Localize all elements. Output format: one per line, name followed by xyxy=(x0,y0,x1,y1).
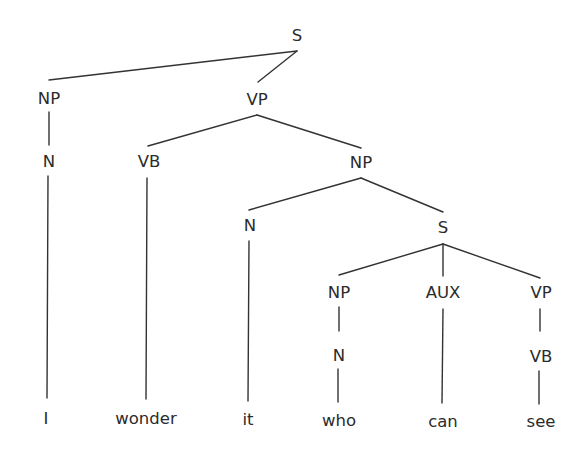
category-node-np_3: NP xyxy=(328,283,350,302)
category-node-vp_2: VP xyxy=(530,283,551,302)
tree-edge-np_2-to-n_2 xyxy=(249,178,361,210)
tree-edge-vb_1-to-w_wonder xyxy=(146,178,147,399)
leaf-word-w_it: it xyxy=(242,410,254,429)
syntax-tree-diagram: SNPVPNVBNPNSNPAUXVPNVBIwonderitwhocansee xyxy=(0,0,583,458)
leaf-word-w_who: who xyxy=(322,411,356,430)
tree-edge-s_sub-to-np_3 xyxy=(339,244,443,275)
tree-edge-s_root-to-vp_1 xyxy=(258,51,297,82)
tree-edge-s_root-to-np_1 xyxy=(49,51,297,80)
tree-edges xyxy=(47,51,540,404)
tree-edge-s_sub-to-vp_2 xyxy=(443,244,540,278)
syntax-tree-svg: SNPVPNVBNPNSNPAUXVPNVBIwonderitwhocansee xyxy=(0,0,583,458)
tree-nodes: SNPVPNVBNPNSNPAUXVPNVBIwonderitwhocansee xyxy=(38,26,556,431)
tree-edge-n_2-to-w_it xyxy=(248,241,249,401)
category-node-n_1: N xyxy=(43,152,55,171)
category-node-s_root: S xyxy=(292,26,302,45)
category-node-np_1: NP xyxy=(38,89,60,108)
leaf-word-w_wonder: wonder xyxy=(115,409,177,428)
leaf-word-w_i: I xyxy=(44,409,49,428)
category-node-n_2: N xyxy=(244,216,256,235)
tree-edge-np_2-to-s_sub xyxy=(361,178,443,212)
category-node-aux_1: AUX xyxy=(426,283,461,302)
leaf-word-w_can: can xyxy=(428,412,458,431)
tree-edge-n_1-to-w_i xyxy=(47,176,48,398)
leaf-word-w_see: see xyxy=(527,412,556,431)
category-node-vb_1: VB xyxy=(138,152,161,171)
tree-edge-vp_1-to-np_2 xyxy=(257,115,361,148)
tree-edge-vp_1-to-vb_1 xyxy=(148,115,257,146)
category-node-s_sub: S xyxy=(438,218,448,237)
category-node-n_3: N xyxy=(333,346,345,365)
category-node-vp_1: VP xyxy=(246,90,267,109)
category-node-np_2: NP xyxy=(350,153,372,172)
category-node-vb_2: VB xyxy=(530,347,553,366)
tree-edge-aux_1-to-w_can xyxy=(442,309,443,403)
